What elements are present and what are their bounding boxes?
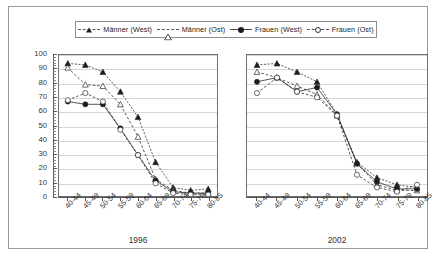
data-point	[65, 98, 70, 103]
legend-label: Männer (West)	[103, 25, 152, 34]
series-line	[68, 93, 208, 195]
data-point	[100, 99, 105, 104]
chart-legend: Männer (West) Männer (Ost) Frauen (West)…	[75, 21, 377, 38]
y-axis-tick-label: 0	[29, 192, 47, 201]
data-point	[374, 185, 379, 190]
data-point	[254, 79, 259, 84]
y-axis-minor-tick	[53, 128, 56, 129]
data-point	[294, 89, 299, 94]
y-axis-minor-tick	[53, 186, 56, 187]
y-axis-tick	[53, 83, 57, 84]
y-axis-minor-tick	[53, 120, 56, 121]
y-axis-tick-label: 100	[29, 49, 47, 58]
legend-item-maenner-ost: Männer (Ost)	[157, 25, 226, 34]
y-axis-tick	[53, 197, 57, 198]
y-axis-minor-tick	[53, 151, 56, 152]
y-axis-tick	[53, 97, 57, 98]
chart-frame: Männer (West) Männer (Ost) Frauen (West)…	[8, 6, 428, 249]
y-axis-minor-tick	[53, 88, 56, 89]
y-axis-tick-label: 50	[29, 121, 47, 130]
y-axis-tick	[53, 126, 57, 127]
data-point	[100, 83, 106, 88]
data-point	[254, 69, 260, 74]
y-axis-tick	[53, 168, 57, 169]
y-axis-minor-tick	[53, 63, 56, 64]
y-axis-minor-tick	[53, 105, 56, 106]
y-axis-minor-tick	[53, 94, 56, 95]
y-axis-minor-tick	[53, 57, 56, 58]
open-circle-icon	[307, 25, 329, 34]
y-axis-minor-tick	[53, 71, 56, 72]
y-axis-minor-tick	[53, 108, 56, 109]
data-point	[135, 114, 141, 119]
y-axis-tick-label: 80	[29, 78, 47, 87]
data-point	[118, 89, 124, 94]
series-line	[257, 78, 417, 189]
y-axis-minor-tick	[53, 65, 56, 66]
legend-label: Frauen (West)	[255, 25, 302, 34]
y-axis-minor-tick	[53, 60, 56, 61]
series-line	[68, 63, 208, 190]
y-axis-tick	[53, 140, 57, 141]
y-axis-minor-tick	[53, 194, 56, 195]
y-axis-minor-tick	[53, 166, 56, 167]
legend-label: Männer (Ost)	[182, 25, 226, 34]
y-axis-minor-tick	[53, 163, 56, 164]
y-axis-minor-tick	[53, 180, 56, 181]
series-line	[257, 72, 417, 190]
y-axis-minor-tick	[53, 103, 56, 104]
y-axis-minor-tick	[53, 137, 56, 138]
y-axis-minor-tick	[53, 114, 56, 115]
y-axis-tick-label: 10	[29, 178, 47, 187]
y-axis-tick	[53, 54, 57, 55]
legend-item-maenner-west: Männer (West)	[78, 25, 152, 34]
data-point	[100, 69, 106, 74]
y-axis-minor-tick	[53, 74, 56, 75]
y-axis-minor-tick	[53, 131, 56, 132]
series-line	[68, 68, 208, 193]
y-axis-tick-label: 20	[29, 163, 47, 172]
y-axis-tick-label: 60	[29, 106, 47, 115]
data-point	[254, 90, 259, 95]
series-plot-2002	[247, 55, 427, 196]
legend-label: Frauen (Ost)	[332, 25, 374, 34]
data-point	[153, 159, 159, 164]
filled-circle-icon	[230, 25, 252, 34]
data-point	[83, 102, 88, 107]
chart-title-1996: 1996	[58, 235, 218, 245]
y-axis-minor-tick	[53, 160, 56, 161]
data-point	[314, 85, 319, 90]
series-line	[257, 63, 417, 187]
y-axis-minor-tick	[53, 85, 56, 86]
y-axis-tick-label: 70	[29, 92, 47, 101]
y-axis-minor-tick	[53, 91, 56, 92]
y-axis-minor-tick	[53, 157, 56, 158]
legend-item-frauen-west: Frauen (West)	[230, 25, 302, 34]
data-point	[374, 179, 379, 184]
y-axis-minor-tick	[53, 171, 56, 172]
data-point	[294, 69, 300, 74]
y-axis-minor-tick	[53, 148, 56, 149]
filled-triangle-icon	[78, 25, 100, 34]
open-triangle-icon	[157, 25, 179, 34]
data-point	[83, 90, 88, 95]
legend-item-frauen-ost: Frauen (Ost)	[307, 25, 374, 34]
series-line	[257, 78, 417, 192]
data-point	[334, 113, 339, 118]
y-axis-minor-tick	[53, 188, 56, 189]
data-point	[254, 62, 260, 67]
data-point	[274, 75, 279, 80]
data-point	[314, 79, 320, 84]
plot-panel-2002	[246, 54, 428, 197]
y-axis-tick	[53, 68, 57, 69]
y-axis-minor-tick	[53, 177, 56, 178]
y-axis-minor-tick	[53, 191, 56, 192]
y-axis-tick-label: 30	[29, 149, 47, 158]
y-axis-tick-label: 90	[29, 63, 47, 72]
y-axis-minor-tick	[53, 77, 56, 78]
data-point	[171, 191, 176, 196]
data-point	[414, 182, 419, 187]
y-axis-tick	[53, 154, 57, 155]
data-point	[83, 82, 89, 87]
y-axis-minor-tick	[53, 100, 56, 101]
